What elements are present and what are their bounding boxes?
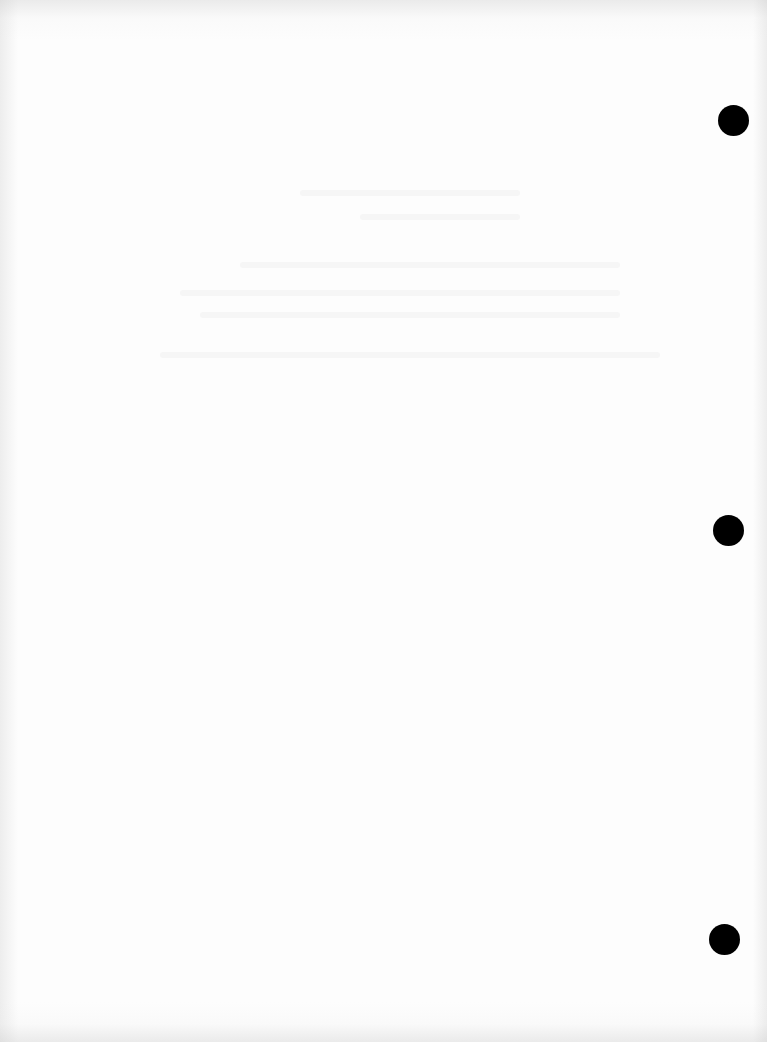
show-through-line: [300, 190, 520, 196]
hole-punch-bottom: [709, 924, 740, 955]
show-through-line: [240, 262, 620, 268]
hole-punch-middle: [713, 515, 744, 546]
scanned-page: [0, 0, 767, 1042]
page-edge-shading: [0, 0, 767, 1042]
show-through-line: [180, 290, 620, 296]
hole-punch-top: [718, 105, 749, 136]
show-through-line: [360, 214, 520, 220]
show-through-line: [200, 312, 620, 318]
show-through-line: [160, 352, 660, 358]
